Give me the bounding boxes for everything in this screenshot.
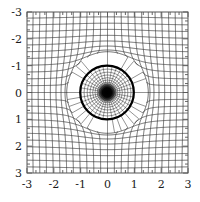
x-axis-tick-label: 0 xyxy=(104,179,111,190)
x-axis-tick-label: -3 xyxy=(22,179,33,190)
plot-canvas xyxy=(0,0,200,202)
y-axis-tick-label: 0 xyxy=(15,87,22,98)
x-axis-tick-label: 1 xyxy=(131,179,138,190)
y-axis-tick-label: 3 xyxy=(15,168,22,179)
origin-density-blob xyxy=(97,82,118,103)
x-axis-tick-label: 2 xyxy=(158,179,165,190)
y-axis-tick-label: 1 xyxy=(15,114,22,125)
y-axis-tick-label: -3 xyxy=(11,7,22,18)
x-axis-tick-label: -2 xyxy=(48,179,59,190)
figure-container: -3-2-101233210-1-2-3 xyxy=(0,0,200,202)
y-axis-tick-label: -2 xyxy=(11,33,22,44)
y-axis-tick-label: -1 xyxy=(11,60,22,71)
x-axis-tick-label: 3 xyxy=(185,179,192,190)
y-axis-tick-label: 2 xyxy=(15,141,22,152)
x-axis-tick-label: -1 xyxy=(75,179,86,190)
